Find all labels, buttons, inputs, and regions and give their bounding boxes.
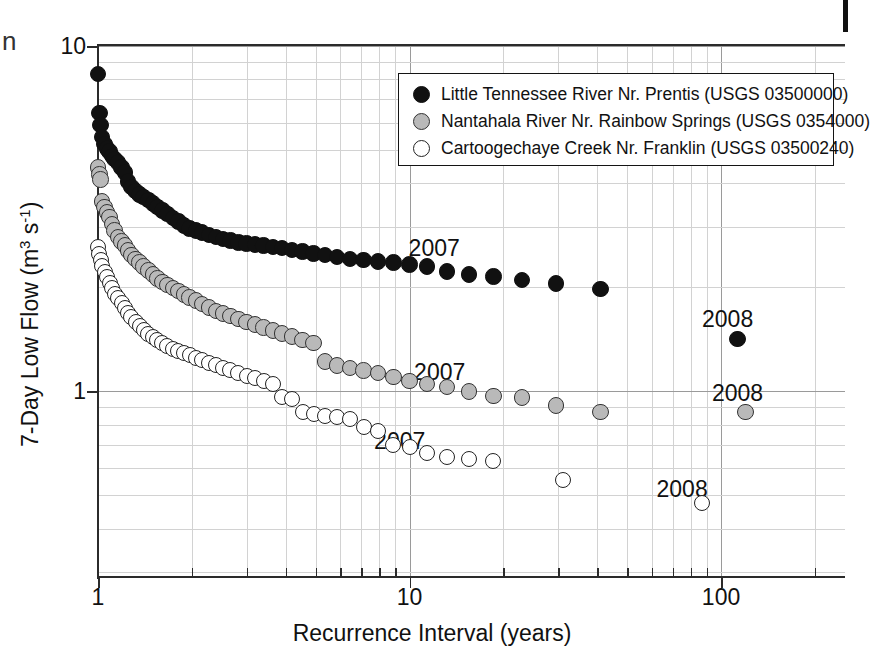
data-point	[485, 268, 502, 285]
gridline-minor-vertical	[286, 46, 287, 577]
x-minor-tick	[627, 568, 629, 577]
gridline-minor-horizontal	[98, 572, 845, 573]
gridline-minor-horizontal	[98, 407, 845, 408]
data-point	[439, 379, 456, 396]
x-tick-label: 1	[92, 584, 105, 611]
x-minor-tick	[395, 568, 397, 577]
x-minor-tick	[340, 568, 342, 577]
data-point	[729, 331, 746, 348]
y-axis-title-suffix: )	[17, 202, 43, 210]
legend-marker-filled-black-icon	[413, 86, 430, 103]
y-major-tick	[87, 46, 99, 48]
data-point	[592, 404, 609, 421]
gridline-minor-horizontal	[98, 495, 845, 496]
gridline-minor-horizontal	[98, 183, 845, 184]
data-point	[439, 263, 456, 280]
scan-artifact-right-bar	[843, 0, 848, 32]
data-point	[385, 369, 402, 386]
gridline-minor-vertical	[379, 46, 380, 577]
legend-label-prentis: Little Tennessee River Nr. Prentis (USGS…	[441, 84, 848, 105]
data-point	[737, 404, 754, 421]
y-tick-label: 1	[40, 378, 86, 405]
data-point	[419, 376, 436, 393]
legend-item-nantahala: Nantahala River Nr. Rainbow Springs (USG…	[413, 108, 833, 135]
data-point	[401, 373, 418, 390]
annotation-year-label: 2008	[712, 379, 763, 406]
axis-bottom-spine	[97, 576, 845, 578]
gridline-minor-vertical	[192, 46, 193, 577]
x-minor-tick	[691, 568, 693, 577]
data-point	[461, 383, 478, 400]
data-point	[514, 272, 531, 289]
x-minor-tick	[673, 568, 675, 577]
x-tick-label: 100	[702, 584, 740, 611]
data-point	[419, 258, 436, 275]
data-point	[402, 439, 418, 455]
x-minor-tick	[247, 568, 249, 577]
data-point	[548, 275, 565, 292]
data-point	[385, 254, 402, 271]
data-point	[592, 281, 609, 298]
data-point	[401, 256, 418, 273]
scan-artifact-left-glyph: n	[2, 26, 16, 57]
y-axis-title-mid: s	[17, 223, 43, 241]
legend-item-prentis: Little Tennessee River Nr. Prentis (USGS…	[413, 81, 833, 108]
axis-top-spine	[97, 44, 845, 46]
legend-box: Little Tennessee River Nr. Prentis (USGS…	[398, 73, 834, 166]
data-point	[461, 451, 477, 467]
legend-label-nantahala: Nantahala River Nr. Rainbow Springs (USG…	[441, 111, 870, 132]
legend-marker-filled-gray-icon	[413, 113, 430, 130]
y-tick-label: 10	[40, 33, 86, 60]
x-minor-tick	[815, 568, 817, 577]
x-minor-tick	[652, 568, 654, 577]
x-axis-title: Recurrence Interval (years)	[0, 620, 864, 647]
annotation-year-label: 2008	[702, 305, 753, 332]
gridline-minor-vertical	[395, 46, 396, 577]
data-point	[370, 423, 386, 439]
x-tick-label: 10	[397, 584, 423, 611]
x-minor-tick	[558, 568, 560, 577]
gridline-minor-vertical	[247, 46, 248, 577]
data-point	[419, 445, 435, 461]
y-axis-title-sup-3: 3	[16, 241, 33, 249]
gridline-minor-horizontal	[98, 468, 845, 469]
legend-marker-open-circle-icon	[413, 140, 430, 157]
data-point	[514, 389, 531, 406]
gridline-minor-vertical	[361, 46, 362, 577]
x-minor-tick	[316, 568, 318, 577]
annotation-year-label: 2007	[409, 235, 460, 262]
gridline-minor-vertical	[340, 46, 341, 577]
data-point	[485, 453, 501, 469]
gridline-minor-horizontal	[98, 425, 845, 426]
data-point	[439, 449, 455, 465]
gridline-minor-vertical	[316, 46, 317, 577]
data-point	[92, 171, 109, 188]
x-minor-tick	[379, 568, 381, 577]
x-minor-tick	[597, 568, 599, 577]
data-point	[461, 266, 478, 283]
y-axis-title: 7-Day Low Flow (m3 s-1)	[16, 134, 45, 514]
x-minor-tick	[192, 568, 194, 577]
gridline-major-horizontal	[98, 46, 845, 47]
data-point	[548, 397, 565, 414]
data-point	[555, 472, 571, 488]
gridline-minor-horizontal	[98, 445, 845, 446]
gridline-minor-horizontal	[98, 287, 845, 288]
y-axis-title-prefix: 7-Day Low Flow (m	[17, 249, 43, 447]
x-minor-tick	[707, 568, 709, 577]
data-point	[485, 388, 502, 405]
gridline-minor-horizontal	[98, 529, 845, 530]
data-point	[370, 365, 387, 382]
x-minor-tick	[503, 568, 505, 577]
y-major-tick	[87, 391, 99, 393]
data-point	[370, 253, 387, 270]
x-minor-tick	[286, 568, 288, 577]
legend-item-cartoogechaye: Cartoogechaye Creek Nr. Franklin (USGS 0…	[413, 135, 833, 162]
legend-label-cartoogechaye: Cartoogechaye Creek Nr. Franklin (USGS 0…	[441, 138, 854, 159]
data-point	[305, 335, 322, 352]
gridline-minor-horizontal	[98, 62, 845, 63]
x-minor-tick	[361, 568, 363, 577]
data-point	[694, 495, 710, 511]
y-axis-title-sup-minus1: -1	[16, 209, 33, 222]
